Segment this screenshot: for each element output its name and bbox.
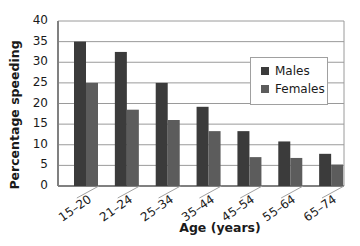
y-tick-label: 10 bbox=[26, 137, 48, 151]
y-tick-label: 15 bbox=[26, 116, 48, 130]
bar-males bbox=[74, 42, 86, 186]
bar-males bbox=[237, 131, 249, 186]
y-tick-label: 30 bbox=[26, 54, 48, 68]
y-tick-label: 25 bbox=[26, 75, 48, 89]
legend-item-females: Females bbox=[261, 82, 325, 96]
bar-females bbox=[249, 157, 261, 186]
bar-chart: Percentage speeding Age (years) 05101520… bbox=[0, 0, 360, 246]
y-tick-label: 0 bbox=[26, 178, 48, 192]
y-tick-label: 35 bbox=[26, 34, 48, 48]
bar-females bbox=[127, 110, 139, 186]
legend-item-males: Males bbox=[261, 64, 310, 78]
bar-males bbox=[156, 83, 168, 186]
bar-females bbox=[209, 131, 221, 186]
y-tick-label: 20 bbox=[26, 96, 48, 110]
bar-males bbox=[197, 107, 209, 186]
bar-females bbox=[290, 158, 302, 186]
bar-females bbox=[331, 165, 343, 186]
legend-swatch-females bbox=[261, 85, 269, 93]
y-axis-label: Percentage speeding bbox=[4, 40, 24, 190]
bar-females bbox=[86, 83, 98, 186]
y-tick-label: 40 bbox=[26, 13, 48, 27]
bar-males bbox=[319, 154, 331, 186]
bar-males bbox=[278, 141, 290, 186]
y-axis-label-text: Percentage speeding bbox=[7, 40, 22, 189]
bar-males bbox=[115, 52, 127, 186]
legend-label-males: Males bbox=[275, 64, 310, 78]
legend-label-females: Females bbox=[275, 82, 325, 96]
legend-swatch-males bbox=[261, 67, 269, 75]
legend: Males Females bbox=[250, 57, 328, 105]
bar-females bbox=[168, 120, 180, 186]
y-tick-label: 5 bbox=[26, 157, 48, 171]
